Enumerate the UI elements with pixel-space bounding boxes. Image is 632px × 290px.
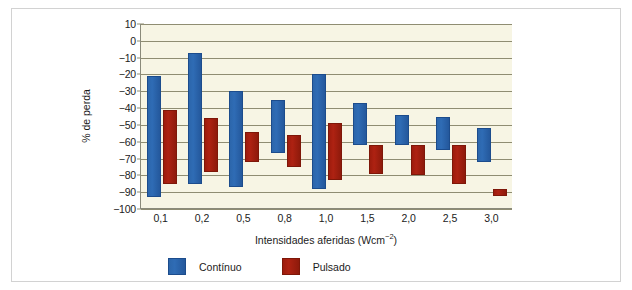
legend-item: Pulsado	[282, 258, 351, 275]
bar-pulsado-3-0	[493, 189, 507, 196]
bar-pulsado-2-0	[411, 145, 425, 175]
y-axis-title: % de perda	[80, 89, 92, 143]
bar-contínuo-1-5	[353, 103, 367, 145]
y-tick-label: −40	[96, 102, 136, 114]
bar-contínuo-0-5	[229, 91, 243, 187]
x-axis-tick-labels: 0,10,20,50,81,01,52,02,53,0	[140, 212, 512, 228]
y-tick-label: −60	[96, 136, 136, 148]
y-tick-label: −30	[96, 85, 136, 97]
y-tick-label: 0	[96, 35, 136, 47]
x-axis-title: Intensidades aferidas (Wcm−2)	[255, 232, 397, 246]
bar-contínuo-0-8	[271, 100, 285, 154]
y-tick-label: −50	[96, 119, 136, 131]
bar-pulsado-0-8	[287, 135, 301, 167]
bar-pulsado-0-2	[204, 118, 218, 172]
y-axis-tick-labels: 100−10−20−30−40−50−60−70−80−90−100	[92, 24, 136, 209]
bar-contínuo-0-1	[147, 76, 161, 197]
gridline	[141, 209, 512, 210]
bar-pulsado-0-1	[163, 110, 177, 184]
legend-label: Contínuo	[199, 261, 242, 273]
y-tick-label: 10	[96, 18, 136, 30]
bar-contínuo-1-0	[312, 74, 326, 188]
bar-contínuo-0-2	[188, 53, 202, 184]
bar-pulsado-1-5	[369, 145, 383, 174]
bar-contínuo-2-5	[436, 117, 450, 151]
legend-swatch-icon	[168, 258, 186, 275]
x-axis-title-tail: )	[394, 234, 398, 246]
x-tick-label: 0,8	[278, 212, 292, 224]
chart-figure: % de perda 100−10−20−30−40−50−60−70−80−9…	[0, 0, 632, 290]
gridline	[141, 192, 512, 193]
x-tick-label: 1,0	[319, 212, 333, 224]
y-tick-label: −20	[96, 68, 136, 80]
bar-pulsado-0-5	[245, 132, 259, 162]
x-tick-label: 2,0	[402, 212, 416, 224]
x-axis-title-main: Intensidades aferidas (Wcm	[255, 234, 385, 246]
gridline	[141, 24, 512, 25]
chart-legend: ContínuoPulsado	[168, 258, 351, 275]
y-tick-label: −90	[96, 186, 136, 198]
x-tick-label: 0,1	[154, 212, 168, 224]
x-tick-label: 0,2	[195, 212, 209, 224]
y-tick-label: −70	[96, 153, 136, 165]
gridline	[141, 41, 512, 42]
x-tick-label: 3,0	[484, 212, 498, 224]
x-tick-label: 1,5	[360, 212, 374, 224]
y-tick-label: −10	[96, 52, 136, 64]
plot-area	[140, 24, 512, 209]
y-tick-label: −100	[96, 203, 136, 215]
x-axis-title-exponent: −2	[385, 232, 394, 241]
bar-contínuo-2-0	[395, 115, 409, 145]
legend-swatch-icon	[282, 258, 300, 275]
x-tick-label: 2,5	[443, 212, 457, 224]
legend-label: Pulsado	[313, 261, 351, 273]
x-tick-label: 0,5	[236, 212, 250, 224]
y-tick-label: −80	[96, 169, 136, 181]
bar-pulsado-1-0	[328, 123, 342, 180]
bar-pulsado-2-5	[452, 145, 466, 184]
legend-item: Contínuo	[168, 258, 242, 275]
bar-contínuo-3-0	[477, 128, 491, 162]
